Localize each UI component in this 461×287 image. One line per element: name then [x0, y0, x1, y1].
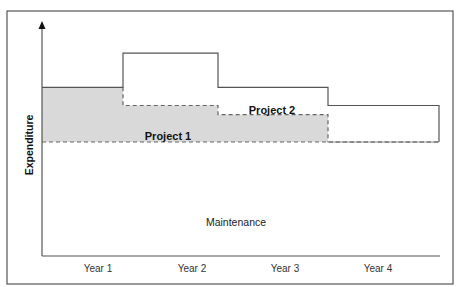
x-tick-year-2: Year 2 — [178, 263, 207, 274]
project-2-label: Project 2 — [249, 104, 295, 116]
expenditure-chart: Expenditure Project 1 Project 2 Maintena… — [0, 0, 461, 287]
y-axis-arrow-icon — [39, 21, 46, 29]
x-tick-year-4: Year 4 — [364, 263, 393, 274]
x-tick-year-3: Year 3 — [271, 263, 300, 274]
maintenance-label: Maintenance — [206, 216, 266, 228]
chart-frame — [7, 11, 453, 284]
x-tick-year-1: Year 1 — [84, 263, 113, 274]
y-axis-label: Expenditure — [23, 115, 35, 176]
project-1-label: Project 1 — [145, 130, 191, 142]
